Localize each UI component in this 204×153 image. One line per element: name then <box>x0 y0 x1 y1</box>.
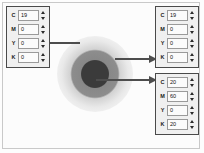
cmyk-row-c: C 20 <box>158 76 196 89</box>
stepper-c-icon[interactable] <box>188 10 196 21</box>
channel-value-k[interactable]: 0 <box>167 52 188 63</box>
channel-label-y: Y <box>9 37 18 50</box>
cmyk-panel-right-top: C 19 M 0 Y 0 K 0 <box>155 6 199 68</box>
channel-label-k: K <box>158 118 167 131</box>
channel-label-m: M <box>158 90 167 103</box>
channel-label-y: Y <box>158 37 167 50</box>
channel-value-c[interactable]: 20 <box>167 77 188 88</box>
channel-value-m[interactable]: 0 <box>167 24 188 35</box>
channel-value-m[interactable]: 0 <box>18 24 39 35</box>
channel-label-k: K <box>158 51 167 64</box>
channel-label-k: K <box>9 51 18 64</box>
cmyk-row-c: C 19 <box>9 9 47 22</box>
stepper-m-icon[interactable] <box>188 24 196 35</box>
stepper-m-icon[interactable] <box>39 24 47 35</box>
cmyk-panel-left: C 19 M 0 Y 0 K 0 <box>6 6 50 68</box>
cmyk-row-m: M 0 <box>9 23 47 36</box>
cmyk-row-k: K 0 <box>9 51 47 64</box>
stepper-y-icon[interactable] <box>188 105 196 116</box>
channel-value-y[interactable]: 0 <box>167 38 188 49</box>
arrow-shaft <box>45 42 80 44</box>
channel-value-m[interactable]: 60 <box>167 91 188 102</box>
channel-value-k[interactable]: 0 <box>18 52 39 63</box>
cmyk-row-k: K 20 <box>158 118 196 131</box>
arrow-to-right-bottom-panel <box>96 75 157 85</box>
channel-label-m: M <box>158 23 167 36</box>
arrow-shaft <box>96 79 150 81</box>
screenshot-root: C 19 M 0 Y 0 K 0 C 19 M 0 <box>0 0 204 153</box>
channel-value-c[interactable]: 19 <box>167 10 188 21</box>
stepper-c-icon[interactable] <box>39 10 47 21</box>
cmyk-row-y: Y 0 <box>9 37 47 50</box>
channel-label-c: C <box>158 9 167 22</box>
channel-value-y[interactable]: 0 <box>167 105 188 116</box>
cmyk-panel-right-bottom: C 20 M 60 Y 0 K 20 <box>155 73 199 135</box>
channel-label-c: C <box>158 76 167 89</box>
stepper-y-icon[interactable] <box>39 38 47 49</box>
arrow-to-right-top-panel <box>115 54 157 64</box>
stepper-k-icon[interactable] <box>188 119 196 130</box>
channel-label-m: M <box>9 23 18 36</box>
cmyk-row-y: Y 0 <box>158 37 196 50</box>
channel-value-k[interactable]: 20 <box>167 119 188 130</box>
stepper-k-icon[interactable] <box>188 52 196 63</box>
channel-label-y: Y <box>158 104 167 117</box>
stepper-y-icon[interactable] <box>188 38 196 49</box>
cmyk-row-m: M 0 <box>158 23 196 36</box>
stepper-m-icon[interactable] <box>188 91 196 102</box>
cmyk-row-k: K 0 <box>158 51 196 64</box>
cmyk-row-y: Y 0 <box>158 104 196 117</box>
channel-label-c: C <box>9 9 18 22</box>
channel-value-c[interactable]: 19 <box>18 10 39 21</box>
channel-value-y[interactable]: 0 <box>18 38 39 49</box>
stepper-c-icon[interactable] <box>188 77 196 88</box>
cmyk-row-m: M 60 <box>158 90 196 103</box>
arrow-shaft <box>115 58 150 60</box>
cmyk-row-c: C 19 <box>158 9 196 22</box>
stepper-k-icon[interactable] <box>39 52 47 63</box>
